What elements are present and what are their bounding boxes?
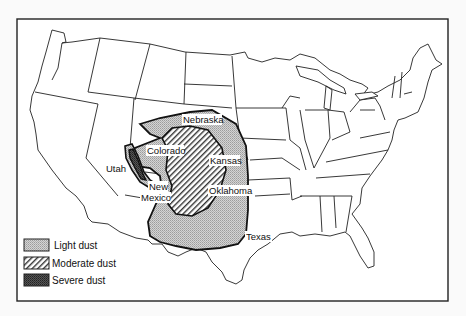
label-mexico: Mexico — [141, 192, 171, 203]
label-oklahoma: Oklahoma — [209, 185, 253, 196]
legend-swatch-severe — [24, 274, 49, 286]
label-nebraska: Nebraska — [183, 114, 224, 125]
label-colorado: Colorado — [147, 145, 186, 156]
dust-map: Utah Colorado Nebraska Kansas New Mexico… — [0, 0, 466, 316]
label-utah: Utah — [106, 163, 126, 174]
legend-label-moderate: Moderate dust — [52, 258, 116, 269]
label-new: New — [149, 181, 168, 192]
label-texas: Texas — [246, 231, 271, 242]
legend-swatch-light — [24, 239, 49, 251]
legend-label-severe: Severe dust — [52, 275, 106, 286]
legend-label-light: Light dust — [54, 240, 98, 251]
legend-swatch-moderate — [24, 257, 49, 269]
label-kansas: Kansas — [210, 155, 242, 166]
